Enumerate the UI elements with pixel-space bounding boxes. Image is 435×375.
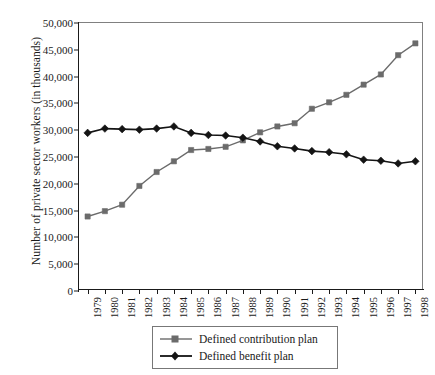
series-defined-benefit-plan [84, 123, 419, 168]
x-tick-label: 1998 [419, 297, 430, 318]
legend-item[interactable]: Defined benefit plan [159, 347, 333, 364]
data-point-marker [344, 92, 349, 97]
legend-label: Defined benefit plan [199, 350, 294, 362]
x-tick-label: 1995 [368, 297, 379, 318]
data-point-marker [343, 151, 351, 159]
data-point-marker [84, 129, 92, 137]
square-marker-icon [159, 332, 193, 346]
y-tick-label: 25,000 [43, 151, 73, 163]
data-point-marker [327, 100, 332, 105]
data-point-marker [206, 146, 211, 151]
data-point-marker [137, 183, 142, 188]
y-tick-label: 30,000 [43, 124, 73, 136]
diamond-marker-icon [159, 349, 193, 363]
x-tick-label: 1979 [92, 297, 103, 318]
data-point-marker [171, 159, 176, 164]
data-point-marker [153, 125, 161, 133]
data-point-marker [101, 125, 109, 133]
chart-figure: Number of private sector workers (in tho… [0, 0, 435, 375]
data-point-marker [136, 126, 144, 134]
x-tick-label: 1996 [385, 297, 396, 318]
data-point-marker [102, 209, 107, 214]
x-tick-label: 1985 [195, 297, 206, 318]
data-point-marker [292, 121, 297, 126]
x-tick-label: 1984 [178, 297, 189, 318]
y-tick-label: 45,000 [43, 44, 73, 56]
data-point-marker [325, 148, 333, 156]
x-tick-label: 1993 [333, 297, 344, 318]
data-point-marker [223, 144, 228, 149]
data-point-marker [396, 53, 401, 58]
data-point-marker [154, 169, 159, 174]
x-tick-label: 1991 [299, 297, 310, 318]
data-point-marker [205, 131, 213, 139]
plot-area: 05,00010,00015,00020,00025,00030,00035,0… [78, 22, 423, 290]
data-point-marker [189, 147, 194, 152]
y-tick-label: 35,000 [43, 97, 73, 109]
x-tick-label: 1997 [402, 297, 413, 318]
x-tick-label: 1988 [247, 297, 258, 318]
data-point-marker [258, 130, 263, 135]
data-point-marker [360, 156, 368, 164]
data-point-marker [274, 143, 282, 151]
y-tick-label: 15,000 [43, 205, 73, 217]
data-point-marker [394, 160, 402, 168]
data-point-marker [85, 214, 90, 219]
data-point-marker [413, 41, 418, 46]
x-tick-label: 1980 [109, 297, 120, 318]
data-point-marker [118, 125, 126, 133]
legend-item[interactable]: Defined contribution plan [159, 330, 333, 347]
x-tick-label: 1989 [264, 297, 275, 318]
data-point-marker [309, 106, 314, 111]
x-tick-label: 1994 [350, 297, 361, 318]
data-point-marker [378, 72, 383, 77]
legend-label: Defined contribution plan [199, 333, 318, 345]
data-point-marker [256, 138, 264, 146]
y-tick-label: 20,000 [43, 178, 73, 190]
y-tick-label: 40,000 [43, 71, 73, 83]
data-point-marker [361, 82, 366, 87]
data-point-marker [170, 123, 178, 131]
y-tick-label: 5,000 [48, 258, 73, 270]
data-point-marker [291, 145, 299, 153]
x-tick-label: 1990 [281, 297, 292, 318]
chart-legend: Defined contribution plan Defined benefi… [152, 326, 338, 369]
y-tick-label: 50,000 [43, 17, 73, 29]
x-tick-label: 1987 [230, 297, 241, 318]
y-tick-label: 0 [68, 285, 74, 297]
data-point-marker [308, 147, 316, 155]
x-tick-label: 1992 [316, 297, 327, 318]
data-point-marker [187, 129, 195, 137]
series-layer [79, 23, 424, 291]
x-tick-label: 1983 [161, 297, 172, 318]
x-tick-label: 1981 [126, 297, 137, 318]
y-axis-title: Number of private sector workers (in tho… [30, 11, 42, 291]
x-tick-label: 1986 [212, 297, 223, 318]
data-point-marker [275, 124, 280, 129]
data-point-marker [222, 132, 230, 140]
series-line [88, 126, 416, 163]
x-tick-label: 1982 [143, 297, 154, 318]
data-point-marker [120, 202, 125, 207]
data-point-marker [377, 157, 385, 165]
y-tick-label: 10,000 [43, 231, 73, 243]
data-point-marker [412, 158, 420, 166]
